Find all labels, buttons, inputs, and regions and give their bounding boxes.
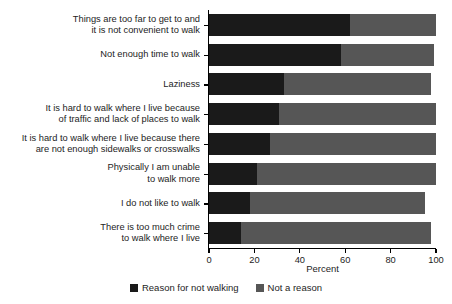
- bar-segment-reason: [209, 163, 257, 185]
- bar-segment-not-a-reason: [270, 133, 436, 155]
- category-label: Things are too far to get to and it is n…: [73, 14, 200, 36]
- legend-item-not-a-reason: Not a reason: [256, 282, 322, 293]
- plot-area: 020406080100: [209, 10, 436, 248]
- bar-segment-not-a-reason: [284, 73, 432, 95]
- bar-segment-not-a-reason: [241, 222, 432, 244]
- category-axis-labels: Things are too far to get to and it is n…: [0, 0, 206, 240]
- x-axis-tick: [299, 249, 300, 253]
- bar-segment-reason: [209, 222, 241, 244]
- category-label: Laziness: [163, 79, 200, 90]
- chart-legend: Reason for not walking Not a reason: [0, 282, 452, 293]
- legend-item-reason: Reason for not walking: [130, 282, 239, 293]
- bar-segment-reason: [209, 133, 270, 155]
- category-label: I do not like to walk: [121, 198, 200, 209]
- bar-row: [209, 222, 436, 244]
- x-axis-tick: [254, 249, 255, 253]
- category-label: Physically I am unable to walk more: [108, 162, 201, 184]
- y-axis-tick: [204, 84, 208, 85]
- bar-segment-reason: [209, 192, 250, 214]
- legend-label: Not a reason: [268, 282, 322, 293]
- bar-segment-reason: [209, 44, 341, 66]
- bar-segment-reason: [209, 14, 350, 36]
- y-axis-tick: [204, 55, 208, 56]
- bar-segment-not-a-reason: [341, 44, 434, 66]
- y-axis-tick: [204, 25, 208, 26]
- black-square-icon: [130, 284, 138, 292]
- x-axis-tick: [435, 249, 436, 253]
- x-axis-title: Percent: [209, 263, 436, 274]
- gray-square-icon: [256, 284, 264, 292]
- category-label: There is too much crime to walk where I …: [100, 222, 200, 244]
- bar-row: [209, 14, 436, 36]
- bar-row: [209, 192, 436, 214]
- bar-segment-reason: [209, 103, 279, 125]
- y-axis-tick: [204, 114, 208, 115]
- bar-row: [209, 133, 436, 155]
- x-axis-tick: [345, 249, 346, 253]
- y-axis-tick: [204, 144, 208, 145]
- bar-row: [209, 44, 436, 66]
- bar-segment-not-a-reason: [250, 192, 425, 214]
- category-label: It is hard to walk where I live because …: [22, 133, 200, 155]
- y-axis-tick: [204, 174, 208, 175]
- bar-segment-reason: [209, 73, 284, 95]
- bar-segment-not-a-reason: [257, 163, 436, 185]
- x-axis-line: [208, 248, 436, 249]
- bar-segment-not-a-reason: [279, 103, 436, 125]
- x-axis-tick: [208, 249, 209, 253]
- bar-row: [209, 163, 436, 185]
- x-axis-tick: [390, 249, 391, 253]
- category-label: It is hard to walk where I live because …: [45, 103, 200, 125]
- bar-row: [209, 73, 436, 95]
- y-axis-tick: [204, 233, 208, 234]
- bar-segment-not-a-reason: [350, 14, 436, 36]
- bar-row: [209, 103, 436, 125]
- stacked-bar-chart: Things are too far to get to and it is n…: [0, 0, 452, 304]
- y-axis-tick: [204, 203, 208, 204]
- category-label: Not enough time to walk: [100, 49, 200, 60]
- legend-label: Reason for not walking: [142, 282, 239, 293]
